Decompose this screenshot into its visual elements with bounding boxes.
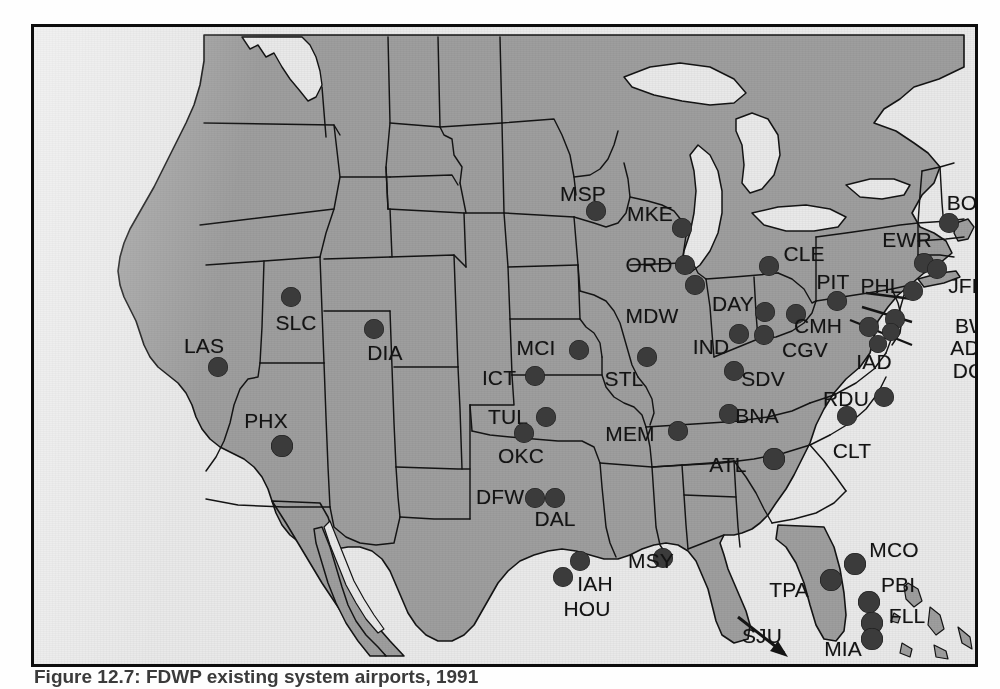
- figure-caption: Figure 12.7: FDWP existing system airpor…: [34, 666, 964, 688]
- airport-marker[interactable]: [763, 448, 785, 470]
- airport-marker[interactable]: [569, 340, 589, 360]
- airport-code-label: MDW: [626, 305, 679, 326]
- airport-marker[interactable]: [525, 366, 545, 386]
- airport-code-label: CLT: [833, 440, 871, 461]
- airport-code-label: EWR: [882, 229, 931, 250]
- airport-marker[interactable]: [869, 335, 887, 353]
- airport-code-label: RDU: [823, 388, 869, 409]
- airport-marker[interactable]: [668, 421, 688, 441]
- airport-code-label: MSY: [628, 550, 674, 571]
- airport-code-label: LAS: [184, 335, 224, 356]
- airport-code-label: MKE: [627, 203, 673, 224]
- airport-marker[interactable]: [827, 291, 847, 311]
- figure-caption-label: Figure 12.7:: [34, 666, 141, 687]
- airport-code-label: CLE: [783, 243, 824, 264]
- airport-code-label: STL: [605, 368, 644, 389]
- airport-code-label: SDV: [741, 368, 784, 389]
- airport-code-label: IAH: [577, 573, 612, 594]
- airport-code-label: MIA: [824, 638, 862, 659]
- airport-marker[interactable]: [675, 255, 695, 275]
- airport-code-label: PHL: [860, 275, 901, 296]
- airport-marker[interactable]: [844, 553, 866, 575]
- airport-code-label: IND: [693, 336, 729, 357]
- airport-code-label: SJU: [742, 625, 782, 646]
- airport-code-label: JFK: [948, 275, 978, 296]
- airport-code-label: MCI: [517, 337, 556, 358]
- airport-marker[interactable]: [903, 281, 923, 301]
- airport-marker[interactable]: [759, 256, 779, 276]
- airport-marker[interactable]: [755, 302, 775, 322]
- airport-marker[interactable]: [271, 435, 293, 457]
- airport-code-label: MCO: [869, 539, 918, 560]
- airport-marker[interactable]: [536, 407, 556, 427]
- airport-code-label: BWI: [955, 315, 978, 336]
- airport-marker[interactable]: [858, 591, 880, 613]
- airport-marker[interactable]: [281, 287, 301, 307]
- airport-code-label: IAD: [856, 351, 891, 372]
- airport-code-label: DFW: [476, 486, 524, 507]
- airport-code-label: HOU: [564, 598, 611, 619]
- airport-marker[interactable]: [208, 357, 228, 377]
- figure-page: MSPMKEORDMDWDAYINDCLEPITPHLEWRJFKBOSCMHC…: [0, 0, 1000, 689]
- airport-code-label: CGV: [782, 339, 828, 360]
- airport-marker[interactable]: [685, 275, 705, 295]
- airport-code-label: PBI: [881, 574, 915, 595]
- airport-marker[interactable]: [927, 259, 947, 279]
- figure-caption-text: FDWP existing system airports, 1991: [146, 666, 478, 687]
- airport-marker[interactable]: [672, 218, 692, 238]
- airport-code-label: PIT: [817, 271, 850, 292]
- airport-code-label: MSP: [560, 183, 606, 204]
- airport-code-label: DAL: [534, 508, 575, 529]
- airport-code-label: ICT: [482, 367, 516, 388]
- airport-marker[interactable]: [553, 567, 573, 587]
- airport-marker[interactable]: [545, 488, 565, 508]
- airport-code-label: CMH: [794, 315, 842, 336]
- airport-code-label: SLC: [275, 312, 316, 333]
- airport-code-label: BNA: [735, 405, 778, 426]
- airport-code-label: DIA: [367, 342, 402, 363]
- airport-code-label: MEM: [605, 423, 654, 444]
- airport-marker[interactable]: [570, 551, 590, 571]
- airport-marker[interactable]: [364, 319, 384, 339]
- airport-code-label: TPA: [769, 579, 809, 600]
- airport-marker[interactable]: [754, 325, 774, 345]
- airport-code-label: ATL: [709, 454, 746, 475]
- airport-marker[interactable]: [514, 423, 534, 443]
- airport-marker[interactable]: [939, 213, 959, 233]
- airport-code-label: ORD: [626, 254, 673, 275]
- airport-marker[interactable]: [729, 324, 749, 344]
- airport-code-label: FLL: [889, 605, 926, 626]
- airport-code-label: DCA: [953, 360, 978, 381]
- airport-marker[interactable]: [820, 569, 842, 591]
- airport-code-label: BOS: [947, 192, 978, 213]
- airport-marker[interactable]: [637, 347, 657, 367]
- airport-code-label: PHX: [244, 410, 287, 431]
- airport-map: MSPMKEORDMDWDAYINDCLEPITPHLEWRJFKBOSCMHC…: [31, 24, 978, 667]
- airport-marker[interactable]: [859, 317, 879, 337]
- airport-code-label: DAY: [712, 293, 754, 314]
- airport-marker[interactable]: [525, 488, 545, 508]
- airport-code-label: ADW: [950, 337, 978, 358]
- airport-marker[interactable]: [861, 628, 883, 650]
- airport-code-label: OKC: [498, 445, 544, 466]
- airport-marker[interactable]: [874, 387, 894, 407]
